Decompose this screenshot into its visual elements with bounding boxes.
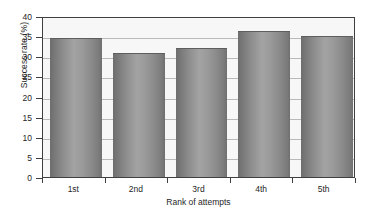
y-axis-tick (36, 138, 42, 139)
bar (50, 38, 102, 177)
y-axis-tick (36, 37, 42, 38)
x-axis-tick (292, 178, 293, 183)
y-axis-tick-label: 0 (8, 174, 32, 182)
y-axis-tick-label: 10 (8, 134, 32, 142)
y-axis-tick-label: 15 (8, 114, 32, 122)
y-axis-tick (36, 17, 42, 18)
x-axis-tick-label: 5th (292, 184, 355, 194)
x-axis-tick-label: 4th (230, 184, 293, 194)
x-axis-tick (230, 178, 231, 183)
y-axis-tick-label: 30 (8, 53, 32, 61)
bar (113, 53, 165, 177)
bar-chart: Success rate (%) 0510152025303540 1st2nd… (0, 0, 370, 215)
y-axis-tick (36, 118, 42, 119)
bar (238, 31, 290, 177)
bar (301, 36, 353, 177)
y-axis-tick (36, 158, 42, 159)
x-axis-tick (355, 178, 356, 183)
y-axis-tick-label: 40 (8, 13, 32, 21)
x-axis-tick-label: 1st (42, 184, 105, 194)
x-axis-tick-label: 3rd (167, 184, 230, 194)
bar (176, 48, 228, 177)
y-axis-tick (36, 98, 42, 99)
x-axis-tick (167, 178, 168, 183)
x-axis-tick (42, 178, 43, 183)
y-axis-tick-label: 5 (8, 154, 32, 162)
y-axis-tick-label: 20 (8, 94, 32, 102)
y-axis-tick (36, 77, 42, 78)
plot-area (42, 17, 355, 178)
y-axis-tick-label: 35 (8, 33, 32, 41)
y-axis-tick (36, 57, 42, 58)
x-axis-tick (105, 178, 106, 183)
x-axis-tick-label: 2nd (105, 184, 168, 194)
x-axis-title: Rank of attempts (42, 197, 355, 207)
y-axis-tick-label: 25 (8, 73, 32, 81)
